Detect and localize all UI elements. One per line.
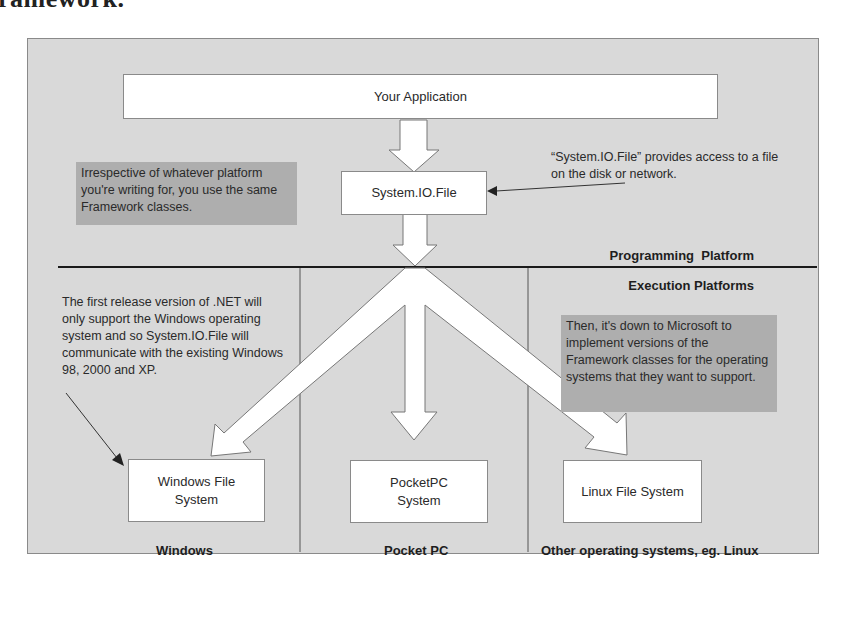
platform-label-pocket-pc: Pocket PC xyxy=(384,543,448,558)
linux-file-system-label: Linux File System xyxy=(581,483,684,501)
system-io-file-label: System.IO.File xyxy=(371,184,456,202)
pocketpc-system-box: PocketPC System xyxy=(350,460,488,523)
note-same-classes: Irrespective of whatever platform you're… xyxy=(76,162,297,225)
linux-file-system-box: Linux File System xyxy=(563,460,702,523)
platform-label-windows: Windows xyxy=(156,543,213,558)
programming-platform-label: Programming Platform xyxy=(610,248,754,263)
arrow-down-icon xyxy=(389,120,439,172)
execution-platforms-label: Execution Platforms xyxy=(628,278,754,293)
platform-label-other: Other operating systems, eg. Linux xyxy=(541,543,758,558)
windows-file-system-label: Windows File System xyxy=(143,473,250,509)
callout-arrowhead-icon xyxy=(487,186,497,196)
note-microsoft: Then, it's down to Microsoft to implemen… xyxy=(561,315,777,412)
note-file-access: “System.IO.File” provides access to a fi… xyxy=(551,149,781,183)
windows-file-system-box: Windows File System xyxy=(128,459,265,522)
pocketpc-system-label: PocketPC System xyxy=(381,474,457,510)
callout-arrowhead-icon xyxy=(112,453,124,466)
your-application-box: Your Application xyxy=(123,74,718,119)
system-io-file-box: System.IO.File xyxy=(341,171,487,215)
arrow-down-icon xyxy=(393,214,437,266)
your-application-label: Your Application xyxy=(374,88,467,106)
note-first-release: The first release version of .NET will o… xyxy=(62,294,287,379)
